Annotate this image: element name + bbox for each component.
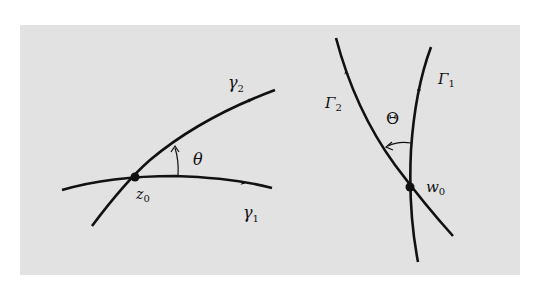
angle-arrow-icon bbox=[386, 142, 393, 150]
left-diagram: z0 θ γ2 γ1 bbox=[62, 73, 275, 226]
right-diagram: w0 Θ Γ1 Γ2 bbox=[324, 38, 455, 262]
point-w0 bbox=[406, 183, 415, 192]
label-w0: w0 bbox=[426, 178, 445, 197]
point-z0 bbox=[131, 173, 140, 182]
curve-gamma1 bbox=[62, 176, 272, 190]
label-Theta: Θ bbox=[386, 109, 399, 128]
conformal-map-diagram: z0 θ γ2 γ1 w0 Θ Γ1 Γ2 bbox=[0, 0, 537, 292]
curve-Gamma2 bbox=[336, 38, 453, 236]
label-Gamma1: Γ1 bbox=[437, 70, 455, 89]
angle-arc-theta bbox=[175, 148, 178, 176]
label-gamma1: γ1 bbox=[243, 203, 259, 224]
label-theta: θ bbox=[193, 150, 203, 169]
label-z0: z0 bbox=[135, 186, 150, 204]
label-gamma2: γ2 bbox=[228, 73, 244, 94]
curve-Gamma1 bbox=[410, 47, 431, 262]
label-Gamma2: Γ2 bbox=[324, 94, 342, 113]
